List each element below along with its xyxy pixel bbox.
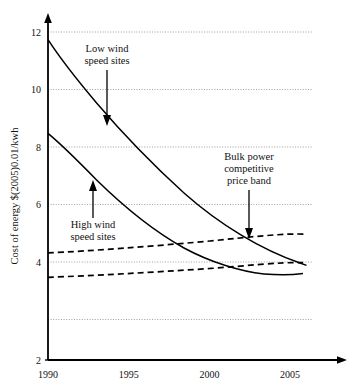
x-axis-tick-labels: 1990 1995 2000 2005 bbox=[38, 369, 300, 380]
annotation-high-wind-line2: speed sites bbox=[70, 231, 115, 242]
y-tick-label-4: 4 bbox=[36, 257, 41, 268]
y-tick-label-12: 12 bbox=[31, 27, 41, 38]
annotation-low-wind-line2: speed sites bbox=[84, 55, 129, 66]
annotation-bulk-power-line1: Bulk power bbox=[224, 151, 274, 162]
y-axis-title: Cost of energy $(2005)0.01/kwh bbox=[9, 127, 21, 265]
y-tick-label-10: 10 bbox=[31, 84, 41, 95]
annotation-low-wind: Low wind speed sites bbox=[84, 43, 129, 126]
arrow-down-icon bbox=[103, 115, 111, 126]
arrow-up-icon bbox=[89, 180, 97, 191]
x-axis-arrowhead bbox=[337, 356, 347, 364]
y-axis-tick-labels: 12 10 8 6 4 2 bbox=[31, 27, 41, 366]
cost-of-energy-line-chart: 12 10 8 6 4 2 1990 1995 2000 2005 Cost o… bbox=[0, 0, 358, 391]
x-tick-label-2005: 2005 bbox=[280, 369, 300, 380]
annotation-high-wind: High wind speed sites bbox=[70, 180, 116, 242]
annotation-bulk-power-line2: competitive bbox=[224, 163, 274, 174]
x-tick-label-2000: 2000 bbox=[199, 369, 219, 380]
chart-container: 12 10 8 6 4 2 1990 1995 2000 2005 Cost o… bbox=[0, 0, 358, 391]
y-tick-label-2: 2 bbox=[36, 355, 41, 366]
annotation-bulk-power-line3: price band bbox=[227, 175, 272, 186]
gridlines bbox=[48, 32, 312, 320]
x-tick-label-1995: 1995 bbox=[119, 369, 139, 380]
y-tick-label-8: 8 bbox=[36, 142, 41, 153]
y-axis-arrowhead bbox=[44, 13, 52, 23]
x-tick-label-1990: 1990 bbox=[38, 369, 58, 380]
series-bulk-power-band-lower bbox=[48, 263, 303, 278]
annotation-low-wind-line1: Low wind bbox=[86, 43, 130, 54]
annotation-bulk-power: Bulk power competitive price band bbox=[224, 151, 274, 239]
y-tick-label-6: 6 bbox=[36, 199, 41, 210]
annotation-high-wind-line1: High wind bbox=[71, 219, 116, 230]
